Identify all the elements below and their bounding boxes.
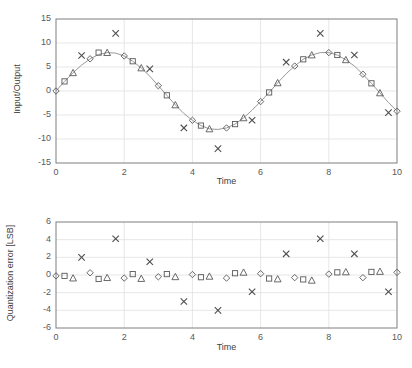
data-point-triangle — [138, 275, 145, 281]
y-tick-label: -4 — [21, 304, 51, 314]
data-point-cross — [351, 251, 357, 257]
y-tick-label: -10 — [21, 133, 51, 143]
data-point-cross — [317, 30, 323, 36]
y-tick-label: -2 — [21, 287, 51, 297]
data-point-cross — [283, 59, 289, 65]
data-point-cross — [112, 30, 118, 36]
data-point-diamond — [360, 274, 366, 280]
gridlines — [56, 19, 397, 163]
y-tick-label: 10 — [21, 37, 51, 47]
data-point-square — [369, 269, 374, 274]
series-square — [62, 50, 374, 128]
y-tick-label: -15 — [21, 157, 51, 167]
data-point-cross — [385, 289, 391, 295]
bottom-y-axis-label: Quantization error [LSB] — [5, 203, 15, 343]
data-point-cross — [249, 117, 255, 123]
x-tick-label: 0 — [41, 332, 71, 342]
data-point-triangle — [172, 273, 179, 279]
x-tick-label: 10 — [382, 332, 412, 342]
data-point-square — [130, 272, 135, 277]
data-point-square — [96, 276, 101, 281]
data-point-triangle — [377, 268, 384, 274]
x-tick-label: 4 — [177, 167, 207, 177]
top-x-axis-label: Time — [187, 176, 267, 186]
y-tick-label: -6 — [21, 322, 51, 332]
y-tick-label: -5 — [21, 109, 51, 119]
x-tick-label: 0 — [41, 167, 71, 177]
data-point-cross — [351, 52, 357, 58]
input-output-panel: Input/Output Time -15-10-50510150246810 — [0, 0, 412, 195]
data-point-triangle — [308, 277, 315, 283]
x-tick-label: 2 — [109, 167, 139, 177]
y-tick-label: 4 — [21, 234, 51, 244]
data-point-square — [62, 273, 67, 278]
data-point-triangle — [342, 269, 349, 275]
y-tick-label: 6 — [21, 216, 51, 226]
data-point-cross — [249, 289, 255, 295]
data-point-cross — [283, 251, 289, 257]
data-point-cross — [147, 259, 153, 265]
y-tick-label: 5 — [21, 61, 51, 71]
data-point-cross — [215, 145, 221, 151]
x-tick-label: 10 — [382, 167, 412, 177]
y-tick-label: 0 — [21, 269, 51, 279]
data-point-triangle — [206, 273, 213, 279]
data-point-square — [164, 272, 169, 277]
x-tick-label: 8 — [314, 167, 344, 177]
bottom-x-axis-label: Time — [187, 342, 267, 352]
figure-root: Input/Output Time -15-10-50510150246810 … — [0, 0, 412, 368]
data-point-diamond — [292, 274, 298, 280]
y-tick-label: 2 — [21, 251, 51, 261]
data-point-triangle — [274, 276, 281, 282]
data-point-cross — [181, 298, 187, 304]
data-point-cross — [78, 52, 84, 58]
data-point-square — [267, 276, 272, 281]
data-point-diamond — [223, 275, 229, 281]
series-triangle — [70, 49, 384, 132]
data-point-diamond — [155, 274, 161, 280]
data-point-square — [301, 277, 306, 282]
x-tick-label: 6 — [246, 332, 276, 342]
data-point-cross — [112, 236, 118, 242]
x-tick-label: 2 — [109, 332, 139, 342]
y-tick-label: 0 — [21, 85, 51, 95]
data-point-cross — [181, 125, 187, 131]
data-point-square — [335, 270, 340, 275]
quantization-error-panel: Quantization error [LSB] Time -6-4-20246… — [0, 195, 412, 368]
y-tick-label: 15 — [21, 13, 51, 23]
x-tick-label: 4 — [177, 332, 207, 342]
data-point-triangle — [240, 269, 247, 275]
x-tick-label: 8 — [314, 332, 344, 342]
data-point-cross — [317, 236, 323, 242]
x-tick-label: 6 — [246, 167, 276, 177]
top-plot-svg — [0, 0, 412, 195]
data-point-triangle — [70, 275, 77, 281]
